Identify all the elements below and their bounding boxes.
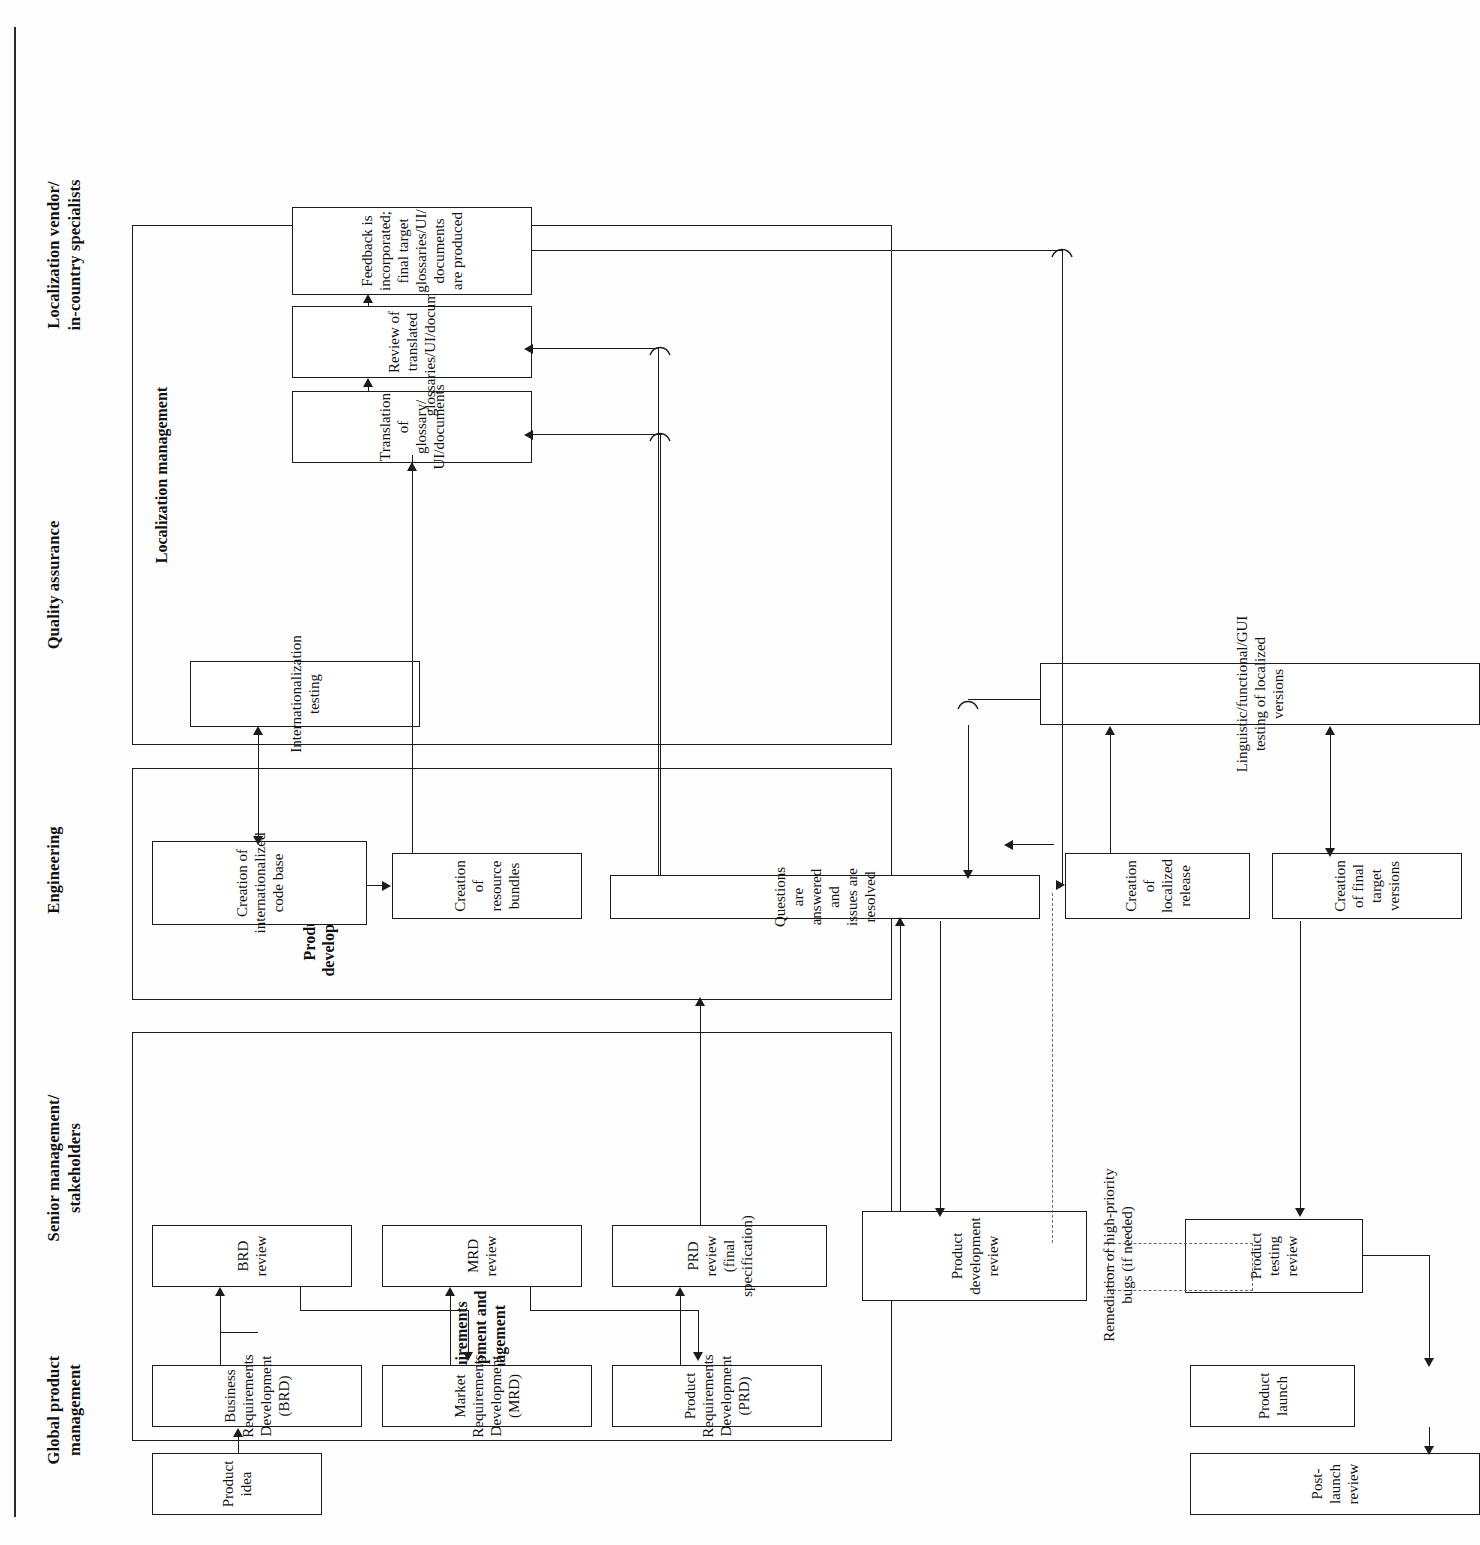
node-label-line: target versions bbox=[1367, 857, 1403, 915]
arrowhead bbox=[1424, 1358, 1434, 1367]
line-jump-icon bbox=[648, 337, 672, 359]
node-brd-review[interactable]: BRD review bbox=[152, 1225, 352, 1287]
node-label-line: Market Requirements bbox=[451, 1354, 487, 1437]
node-feedback-is-incorporated[interactable]: Feedback is incorporated; final target g… bbox=[292, 207, 532, 295]
arrowhead bbox=[407, 462, 417, 471]
node-label-line: Development (MRD) bbox=[487, 1356, 523, 1437]
node-creation-of-localized-release[interactable]: Creation of localized release bbox=[1065, 853, 1250, 919]
arrowhead bbox=[363, 378, 373, 387]
arrowhead bbox=[463, 1352, 473, 1361]
lane-title-line: Senior management/ bbox=[44, 1053, 65, 1283]
connector-proddevreview-questions-a bbox=[900, 921, 901, 1211]
connector-remediation-dashed-path bbox=[1052, 893, 1053, 1243]
connector-idea-to-brd bbox=[238, 1437, 239, 1453]
node-label-line: PRD review bbox=[684, 1229, 720, 1283]
node-prd[interactable]: Product Requirements Development (PRD) bbox=[612, 1365, 822, 1427]
arrowhead bbox=[1325, 726, 1335, 735]
node-label: Product idea bbox=[219, 1457, 255, 1511]
node-label-line: (final specification) bbox=[720, 1215, 756, 1297]
node-remediation-of-high-priority-bugs: Remediation of high-priority bugs (if ne… bbox=[1100, 1165, 1136, 1345]
lane-title-line: stakeholders bbox=[65, 1053, 86, 1283]
node-label-line: Development (PRD) bbox=[717, 1356, 753, 1437]
node-creation-of-resource-bundles[interactable]: Creation of resource bundles bbox=[392, 853, 582, 919]
lane-title-global-product-management: Global product management bbox=[44, 1315, 85, 1505]
node-label-line: Product Requirements bbox=[681, 1354, 717, 1437]
connector-testingreview-to-launch-h bbox=[1429, 1255, 1430, 1359]
group-label-line: Localization management bbox=[152, 350, 171, 600]
lane-title-engineering: Engineering bbox=[44, 780, 65, 960]
connector-questions-to-review-v bbox=[532, 348, 658, 349]
arrowhead bbox=[1004, 840, 1013, 850]
arrowhead bbox=[524, 430, 533, 440]
node-creation-of-internationalized-code-base[interactable]: Creation of internationalized code base bbox=[152, 841, 367, 925]
connector-finaltarget-to-testingreview bbox=[1300, 921, 1301, 1211]
node-label-line: resource bundles bbox=[487, 857, 523, 915]
arrowhead bbox=[693, 1352, 703, 1361]
node-label-line: documents are produced bbox=[430, 211, 466, 291]
node-label-line: Business Requirements bbox=[221, 1354, 257, 1437]
node-label-line: final target glossaries/UI/ bbox=[394, 209, 430, 292]
node-label: Linguistic/functional/GUI testing of loc… bbox=[1233, 616, 1287, 773]
connector-mrdreview-to-prd-v bbox=[530, 1310, 698, 1311]
connector-prdreview-to-proddev bbox=[700, 1003, 701, 1225]
node-label-line: Creation of final bbox=[1331, 857, 1367, 915]
arrowhead bbox=[935, 1208, 945, 1217]
connector-brdreview-to-mrd-v bbox=[300, 1310, 468, 1311]
arrowhead bbox=[963, 870, 973, 879]
node-internationalization-testing[interactable]: Internationalization testing bbox=[190, 661, 420, 727]
lane-title-localization-vendor: Localization vendor/ in-country speciali… bbox=[44, 130, 85, 380]
arrowhead bbox=[382, 881, 391, 891]
node-label-line: Development (BRD) bbox=[257, 1356, 293, 1437]
lane-title-line: in-country specialists bbox=[65, 130, 86, 380]
node-label-line: bugs (if needed) bbox=[1118, 1206, 1136, 1303]
node-post-launch-review[interactable]: Post-launch review bbox=[1190, 1453, 1480, 1515]
node-label-line: Feedback is incorporated; bbox=[358, 211, 394, 291]
node-label-line: Creation of bbox=[233, 849, 251, 917]
lane-title-line: management bbox=[65, 1315, 86, 1505]
node-review-of-translated-glossaries[interactable]: Review of translated glossaries/UI/docum… bbox=[292, 306, 532, 378]
node-label-line: development bbox=[966, 1217, 984, 1294]
line-jump-icon bbox=[956, 691, 980, 713]
node-label-line: Review of translated bbox=[385, 310, 421, 374]
arrowhead bbox=[675, 1287, 685, 1296]
connector-codebase-to-i18ntesting bbox=[258, 733, 259, 841]
node-label-line: code base bbox=[269, 854, 287, 913]
node-creation-of-final-target-versions[interactable]: Creation of final target versions bbox=[1272, 853, 1462, 919]
node-label: Product launch bbox=[1255, 1369, 1291, 1423]
node-label-line: Remediation of high-priority bbox=[1100, 1168, 1118, 1341]
connector-feedback-to-release-v bbox=[532, 250, 1062, 251]
header-rule bbox=[14, 27, 16, 1517]
connector-mrdreview-to-prd-h bbox=[530, 1286, 531, 1311]
node-brd[interactable]: Business Requirements Development (BRD) bbox=[152, 1365, 362, 1427]
lane-title-line: Localization vendor/ bbox=[44, 130, 65, 380]
lane-title-line: Quality assurance bbox=[44, 480, 65, 690]
connector-mrd-to-mrdreview bbox=[450, 1295, 451, 1365]
node-translation-of-glossary[interactable]: Translation of glossary/ UI/documents bbox=[292, 391, 532, 463]
node-mrd-review[interactable]: MRD review bbox=[382, 1225, 582, 1287]
arrowhead bbox=[695, 997, 705, 1006]
connector-brd-to-brd-review-h bbox=[220, 1332, 221, 1365]
arrowhead bbox=[1424, 1446, 1434, 1455]
connector-testingreview-to-launch-v bbox=[1363, 1255, 1429, 1256]
node-linguistic-functional-gui-testing[interactable]: Linguistic/functional/GUI testing of loc… bbox=[1040, 663, 1480, 725]
node-label-line: Product bbox=[948, 1233, 966, 1280]
node-prd-review[interactable]: PRD review (final specification) bbox=[612, 1225, 827, 1287]
node-product-development-review[interactable]: Product development review bbox=[862, 1211, 1087, 1301]
arrowhead bbox=[363, 294, 373, 303]
lane-title-quality-assurance: Quality assurance bbox=[44, 480, 65, 690]
node-label-line: Internationalization bbox=[287, 635, 305, 752]
group-label-localization-management: Localization management bbox=[152, 350, 171, 600]
node-label-line: localized release bbox=[1158, 857, 1194, 915]
lane-title-line: Engineering bbox=[44, 780, 65, 960]
node-label-line: testing bbox=[305, 674, 323, 714]
node-mrd[interactable]: Market Requirements Development (MRD) bbox=[382, 1365, 592, 1427]
arrowhead bbox=[445, 1287, 455, 1296]
node-product-idea[interactable]: Product idea bbox=[152, 1453, 322, 1515]
node-product-launch[interactable]: Product launch bbox=[1190, 1365, 1355, 1427]
lane-title-line: Global product bbox=[44, 1315, 65, 1505]
node-questions-are-answered[interactable]: Questions are answered and issues are re… bbox=[610, 875, 1040, 919]
connector-remediation-solid-v bbox=[1012, 844, 1054, 845]
connector-brd-to-brd-review bbox=[220, 1332, 258, 1333]
node-label: Post-launch review bbox=[1308, 1457, 1362, 1511]
